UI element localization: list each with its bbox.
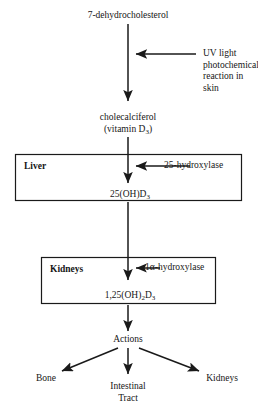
- uv-line3: reaction in skin: [203, 71, 258, 94]
- vitamin-d-subscript: 3: [145, 128, 149, 136]
- target-kidneys-label: Kidneys: [206, 373, 238, 385]
- node-cholecalciferol-label: cholecalciferol (vitamin D3): [58, 112, 198, 136]
- arrow-actions-to-bone: [62, 348, 118, 371]
- vitamin-d-prefix: (vitamin D: [104, 124, 145, 134]
- calcidiol-subscript: 3: [146, 193, 150, 201]
- input-uv-light-label: UV light photochemical reaction in skin: [203, 48, 258, 94]
- input-25-hydroxylase-label: 25-hydroxylase: [164, 160, 223, 172]
- calcitriol-subscript-2: 2: [141, 294, 145, 302]
- liver-box-label: Liver: [24, 161, 46, 173]
- node-calcidiol-label: 25(OH)D3: [110, 189, 150, 202]
- kidneys-box-label: Kidneys: [50, 264, 83, 276]
- arrow-actions-to-kidneys: [139, 348, 199, 371]
- calcitriol-prefix: 1,25(OH): [105, 290, 142, 300]
- cholecalciferol-line2: (vitamin D3): [58, 124, 198, 137]
- target-bone-label: Bone: [36, 373, 56, 385]
- target-intestinal-tract-label: Intestinal Tract: [93, 381, 163, 404]
- calcitriol-subscript-3: 3: [152, 294, 156, 302]
- intestinal-tract-line1: Intestinal: [93, 381, 163, 393]
- uv-line2: photochemical: [203, 60, 258, 72]
- intestinal-tract-line2: Tract: [93, 393, 163, 405]
- input-1alpha-hydroxylase-label: 1α-hydroxylase: [145, 262, 204, 274]
- calcidiol-prefix: 25(OH)D: [110, 189, 146, 199]
- vitamin-d-suffix: ): [149, 124, 152, 134]
- node-precursor-label: 7-dehydrocholesterol: [88, 10, 169, 22]
- node-calcitriol-label: 1,25(OH)2D3: [105, 290, 156, 303]
- cholecalciferol-line1: cholecalciferol: [58, 112, 198, 124]
- vitamin-d-pathway-diagram: 7-dehydrocholesterol cholecalciferol (vi…: [0, 0, 258, 417]
- uv-line1: UV light: [203, 48, 258, 60]
- node-actions-label: Actions: [113, 334, 143, 346]
- hydroxylase-1a-suffix: -hydroxylase: [155, 262, 205, 272]
